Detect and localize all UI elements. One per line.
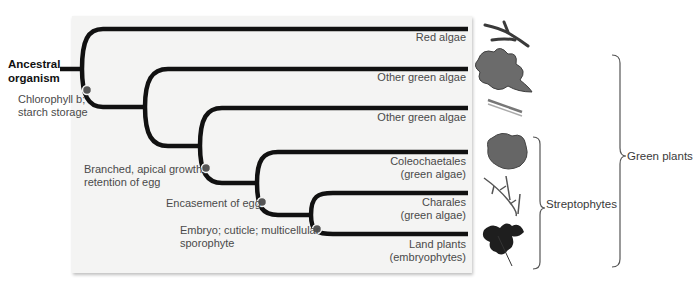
bracket-label-green-plants: Green plants [627, 150, 693, 162]
trait-label-apical-growth: Branched, apical growth; retention of eg… [84, 163, 205, 189]
taxon-label-other-green-algae-2: Other green algae [377, 111, 466, 124]
bracket-label-streptophytes: Streptophytes [546, 198, 617, 210]
coleochaete-disk-icon [488, 133, 528, 169]
root-label: Ancestral organism [8, 57, 60, 85]
green-alga-thallus-icon [475, 48, 532, 92]
taxon-label-land-plants: Land plants (embryophytes) [390, 238, 466, 264]
trait-label-embryo: Embryo; cuticle; multicellular sporophyt… [180, 224, 319, 250]
branch-red-algae [82, 29, 468, 69]
taxon-label-charales: Charales (green algae) [401, 196, 466, 222]
green-plants-bracket [612, 55, 626, 267]
filamentous-alga-icon [488, 100, 522, 116]
red-alga-icon [485, 22, 528, 46]
phylogenetic-tree [0, 0, 694, 287]
taxon-label-other-green-algae-1: Other green algae [377, 71, 466, 84]
branch-b-lower [145, 107, 200, 146]
chara-stonewort-icon [484, 176, 520, 216]
fern-frond-icon [483, 223, 524, 266]
taxon-label-red-algae: Red algae [416, 31, 466, 44]
trait-label-chlorophyll-b: Chlorophyll b; starch storage [18, 93, 88, 119]
streptophytes-bracket [533, 137, 545, 269]
trait-label-encasement-of-egg: Encasement of egg [166, 197, 261, 210]
taxon-label-coleochaetales: Coleochaetales (green algae) [390, 155, 466, 181]
